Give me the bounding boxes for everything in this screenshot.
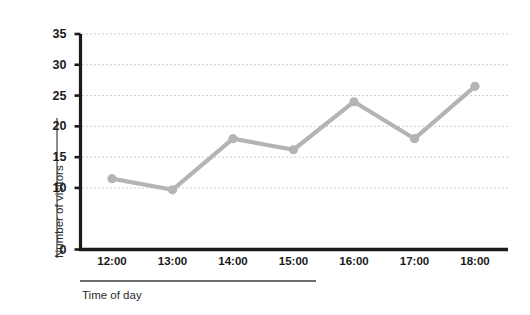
x-axis-tick-label: 17:00 — [385, 256, 445, 268]
y-axis-tick-label: 15 — [41, 151, 67, 164]
x-axis-tick-label: 15:00 — [264, 256, 324, 268]
y-axis-tick-label: 30 — [41, 59, 67, 72]
y-axis-tick-label: 20 — [41, 120, 67, 133]
series-line — [112, 86, 475, 189]
x-axis-tick-label: 14:00 — [203, 256, 263, 268]
data-point — [349, 97, 358, 106]
data-point — [289, 145, 298, 154]
data-line-series — [112, 86, 475, 189]
data-point — [168, 185, 177, 194]
x-axis-tick-label: 18:00 — [445, 256, 505, 268]
data-point — [470, 82, 479, 91]
data-point — [410, 134, 419, 143]
data-point — [228, 134, 237, 143]
x-axis-tick-label: 12:00 — [82, 256, 142, 268]
axis-lines — [79, 34, 508, 250]
y-axis-tick-label: 35 — [41, 28, 67, 41]
y-axis-tick-label: 10 — [41, 182, 67, 195]
data-point — [107, 174, 116, 183]
x-axis-tick-label: 16:00 — [324, 256, 384, 268]
y-axis-tick-label: 25 — [41, 89, 67, 102]
x-axis-tick-label: 13:00 — [143, 256, 203, 268]
chart-canvas — [0, 0, 530, 315]
plot-area: 0101520253035 12:0013:0014:0015:0016:001… — [0, 0, 530, 315]
data-point-markers — [107, 82, 479, 195]
y-axis-tick-label: 0 — [41, 243, 67, 256]
chart-figure: Number of visitors Time of day 010152025… — [0, 0, 530, 315]
